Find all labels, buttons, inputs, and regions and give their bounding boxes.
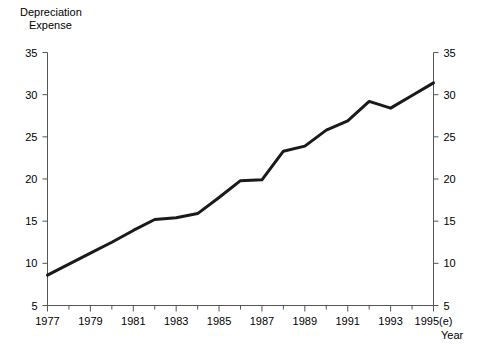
y-tick-label: 30 [25, 89, 37, 101]
y-tick-label-right: 30 [444, 89, 456, 101]
y-tick-label: 20 [25, 173, 37, 185]
x-axis: 1977197919811983198519871989199119931995… [35, 306, 452, 327]
chart-figure: DepreciationExpense Year 5101520253035 5… [0, 0, 489, 353]
x-tick-label: 1979 [78, 315, 102, 327]
series-line [48, 83, 434, 275]
x-tick-label: 1989 [293, 315, 317, 327]
y-tick-label: 35 [25, 47, 37, 59]
y-tick-label-right: 15 [444, 215, 456, 227]
x-axis-title: Year [441, 329, 463, 342]
x-tick-label: 1983 [164, 315, 188, 327]
y-tick-label-right: 5 [444, 300, 450, 312]
x-tick-label: 1985 [207, 315, 231, 327]
y-tick-label: 25 [25, 131, 37, 143]
y-tick-label: 5 [31, 300, 37, 312]
x-tick-label: 1977 [35, 315, 59, 327]
y-tick-label: 10 [25, 257, 37, 269]
y-tick-label-right: 35 [444, 47, 456, 59]
y-axis-title-line1: Depreciation [20, 6, 82, 18]
y-tick-label-right: 20 [444, 173, 456, 185]
y-axis-title-line2: Expense [20, 19, 82, 32]
x-tick-label: 1981 [121, 315, 145, 327]
x-tick-label: 1995(e) [415, 315, 453, 327]
left-axis: 5101520253035 [25, 47, 47, 312]
x-tick-label: 1993 [378, 315, 402, 327]
y-axis-title: DepreciationExpense [20, 6, 82, 32]
y-tick-label-right: 10 [444, 257, 456, 269]
y-tick-label: 15 [25, 215, 37, 227]
y-tick-label-right: 25 [444, 131, 456, 143]
right-axis: 5101520253035 [434, 47, 456, 312]
x-tick-label: 1987 [250, 315, 274, 327]
x-tick-label: 1991 [335, 315, 359, 327]
line-chart-plot: 5101520253035 5101520253035 197719791981… [0, 0, 489, 353]
data-series-depreciation-expense [48, 83, 434, 275]
